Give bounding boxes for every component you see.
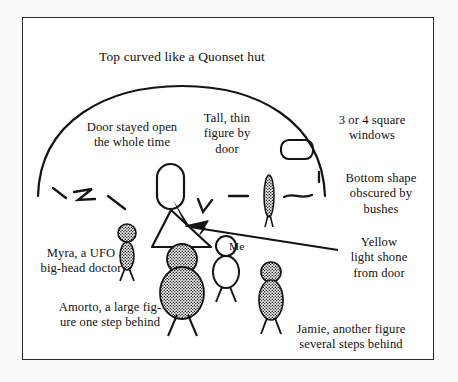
label-me: Me <box>229 240 263 254</box>
label-quonset-hut: Top curved like a Quonset hut <box>58 49 306 65</box>
label-bottom-shape: Bottom shape obscured by bushes <box>322 171 440 217</box>
label-jamie: Jamie, another figure several steps behi… <box>258 322 444 353</box>
sketch-page: Top curved like a Quonset hut Door staye… <box>0 0 458 382</box>
label-amorto: Amorto, a large fig- ure one step behind <box>40 300 180 331</box>
label-yellow-light: Yellow light shone from door <box>330 235 428 281</box>
label-windows: 3 or 4 square windows <box>310 113 434 144</box>
label-myra: Myra, a UFO big-head doctor <box>26 246 136 277</box>
label-tall-figure: Tall, thin figure by door <box>184 111 270 157</box>
